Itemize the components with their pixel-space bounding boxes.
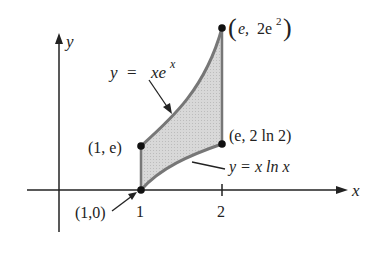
y-axis-arrow-icon	[55, 33, 63, 44]
arrow-xlnx	[192, 162, 225, 169]
arrow-xex	[149, 80, 168, 108]
svg-text:=: =	[127, 63, 137, 82]
x-tick-label-1: 1	[136, 203, 144, 220]
label-xlnx: y = x ln x	[227, 158, 290, 176]
arrow-1-0	[112, 196, 132, 211]
svg-text:2: 2	[276, 15, 282, 27]
svg-text:xe: xe	[150, 63, 167, 82]
area-between-curves-diagram: y x 1 2 y = xe x y = x ln x (1, e) (e, 2…	[0, 0, 374, 254]
y-axis-label: y	[64, 32, 74, 51]
label-point-1-0: (1,0)	[75, 204, 106, 222]
point-1-0	[137, 186, 145, 194]
arrowhead-xex-icon	[163, 103, 172, 114]
x-axis-label: x	[351, 181, 360, 200]
label-point-e-2e2: ( e, 2e 2 )	[228, 13, 292, 42]
arrowhead-1-0-icon	[128, 192, 137, 200]
x-axis-arrow-icon	[336, 186, 348, 194]
svg-text:y: y	[108, 63, 118, 82]
x-tick-label-2: 2	[217, 203, 225, 220]
svg-text:(: (	[228, 13, 237, 42]
label-point-1-e: (1, e)	[88, 139, 122, 157]
label-xex: y = xe x	[108, 57, 176, 82]
svg-text:e,: e,	[238, 20, 249, 37]
svg-text:2e: 2e	[257, 20, 272, 37]
label-point-e-2ln2: (e, 2 ln 2)	[229, 127, 291, 145]
point-e-2e2	[218, 24, 226, 32]
point-e-2ln2	[218, 140, 226, 148]
point-1-e	[137, 142, 145, 150]
svg-text:): )	[283, 13, 292, 42]
svg-text:x: x	[169, 57, 176, 71]
